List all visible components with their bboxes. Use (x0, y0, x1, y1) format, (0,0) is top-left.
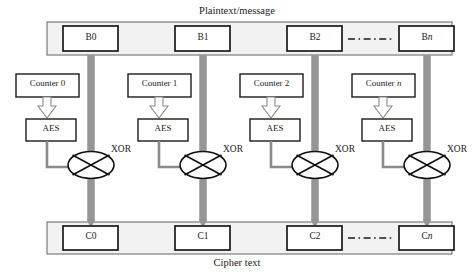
plaintext-block-bn: Bn (421, 33, 432, 43)
plaintext-block-bn-index: n (428, 32, 433, 42)
xor-label-n: XOR (447, 145, 467, 155)
aes-box-2-label: AES (266, 124, 283, 133)
plaintext-block-b2-label: B2 (309, 32, 320, 42)
counter-box-1: Counter 1 (142, 79, 178, 88)
counter-box-2-label: Counter 2 (254, 78, 290, 88)
counter-box-1-label: Counter 1 (142, 78, 178, 88)
xor-node-1 (180, 152, 226, 179)
ciphertext-caption: Cipher text (214, 258, 261, 269)
aes-boxes (26, 119, 412, 141)
ctr-mode-diagram: Plaintext/message Cipher text B0 B1 B2 B… (0, 0, 475, 272)
plaintext-block-b1: B1 (197, 33, 208, 43)
plaintext-block-b0-label: B0 (85, 32, 96, 42)
xor-label-1: XOR (223, 145, 243, 155)
xor-node-0 (68, 152, 114, 179)
counter-box-n-label: Counter (366, 78, 397, 88)
counter-box-0: Counter 0 (30, 79, 66, 88)
counter-box-2: Counter 2 (254, 79, 290, 88)
cipher-block-c1: C1 (197, 232, 208, 242)
xor-node-2 (292, 152, 338, 179)
counter-box-n: Counter n (366, 79, 402, 88)
diagram-canvas (0, 0, 475, 272)
counter-box-n-index: n (397, 78, 402, 88)
aes-box-0-label: AES (42, 124, 59, 133)
cipher-block-c2-label: C2 (309, 231, 320, 241)
cipher-block-c2: C2 (309, 232, 320, 242)
xor-label-2: XOR (335, 145, 355, 155)
cipher-block-c0-label: C0 (85, 231, 96, 241)
counter-boxes (16, 74, 415, 97)
aes-box-1-label: AES (154, 124, 171, 133)
plaintext-block-b0: B0 (85, 33, 96, 43)
xor-node-n (404, 152, 450, 179)
plaintext-block-b1-label: B1 (197, 32, 208, 42)
cipher-block-cn-index: n (428, 231, 433, 241)
data-path-arrows-lower (91, 178, 427, 220)
cipher-block-c1-label: C1 (197, 231, 208, 241)
counter-box-0-label: Counter 0 (30, 78, 66, 88)
plaintext-block-b2: B2 (309, 33, 320, 43)
cipher-block-c0: C0 (85, 232, 96, 242)
xor-label-0: XOR (111, 145, 131, 155)
xor-nodes (68, 152, 450, 179)
plaintext-caption: Plaintext/message (199, 6, 275, 17)
aes-box-n-label: AES (378, 124, 395, 133)
cipher-block-cn: Cn (421, 232, 432, 242)
